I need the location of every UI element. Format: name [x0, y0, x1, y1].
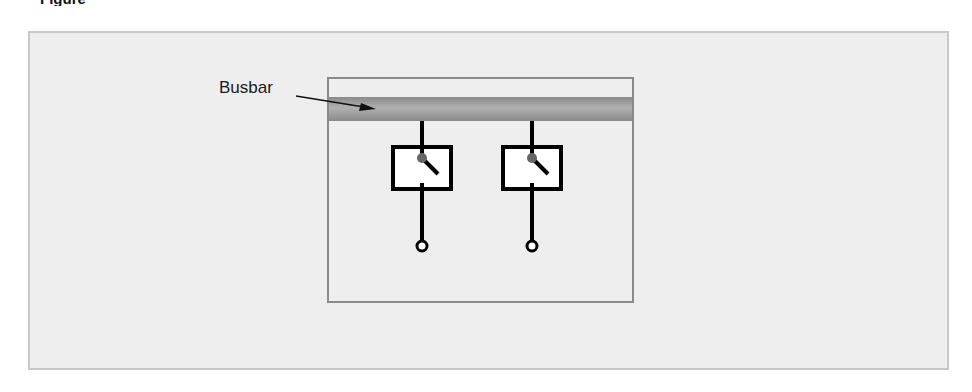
switch-unit-2 — [503, 121, 561, 251]
pivot-dot-icon — [527, 153, 537, 163]
switchgear-diagram — [0, 0, 972, 392]
busbar-label: Busbar — [219, 78, 273, 98]
switch-unit-1 — [393, 121, 451, 251]
terminal-icon — [417, 241, 427, 251]
pivot-dot-icon — [417, 153, 427, 163]
terminal-icon — [527, 241, 537, 251]
